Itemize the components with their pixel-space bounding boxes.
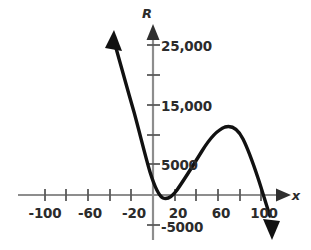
- y-tick-label-25000: 25,000: [161, 38, 212, 54]
- graph-figure: R x 25,000 15,000 5000 -5000 -100 -60 -2…: [0, 0, 311, 250]
- y-tick-label--5000: -5000: [161, 219, 203, 235]
- polynomial-curve: [114, 41, 270, 216]
- x-tick-label-20: 20: [169, 205, 187, 221]
- x-tick-label-60: 60: [212, 205, 230, 221]
- curve-arrowhead-upper-left: [105, 30, 122, 51]
- x-tick-label--20: -20: [122, 205, 146, 221]
- y-tick-label-15000: 15,000: [161, 98, 212, 114]
- x-tick-label--60: -60: [78, 205, 102, 221]
- x-tick-label-100: 100: [250, 205, 278, 221]
- y-tick-label-5000: 5000: [161, 157, 198, 173]
- x-axis-arrowhead: [276, 189, 291, 202]
- y-axis-arrowhead: [147, 24, 160, 40]
- x-tick-label--100: -100: [29, 205, 62, 221]
- y-axis-label: R: [142, 6, 152, 21]
- curve-arrowhead-lower-right: [263, 219, 280, 240]
- coordinate-plot: R x 25,000 15,000 5000 -5000 -100 -60 -2…: [0, 0, 311, 250]
- x-axis-label: x: [291, 188, 301, 203]
